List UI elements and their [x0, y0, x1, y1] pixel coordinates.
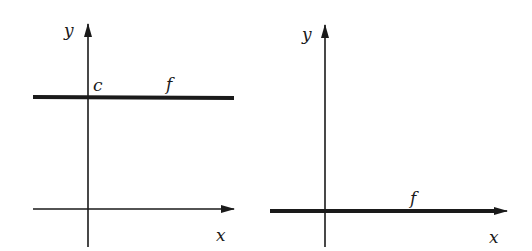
left-y-label: y — [63, 20, 74, 40]
right-f-label: f — [408, 188, 419, 208]
right-panel: y f x — [270, 24, 507, 247]
left-function-line — [33, 97, 234, 98]
left-panel: y c f x — [33, 20, 234, 247]
left-x-label: x — [216, 225, 226, 245]
diagram-svg: y c f x y f x — [0, 0, 532, 251]
right-x-label: x — [489, 227, 499, 247]
figure: y c f x y f x — [0, 0, 532, 251]
left-c-label: c — [93, 75, 103, 95]
right-y-label: y — [301, 24, 312, 44]
left-f-label: f — [164, 74, 175, 94]
